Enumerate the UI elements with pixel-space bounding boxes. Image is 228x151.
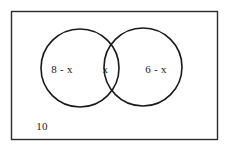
right-region-label: 6 - x: [145, 63, 167, 75]
venn-diagram-canvas: 8 - x x 6 - x 10: [0, 0, 228, 151]
intersection-region-label: x: [103, 63, 109, 75]
left-region-label: 8 - x: [51, 63, 73, 75]
outside-region-label: 10: [36, 120, 48, 132]
venn-diagram-figure: 8 - x x 6 - x 10: [0, 0, 228, 151]
